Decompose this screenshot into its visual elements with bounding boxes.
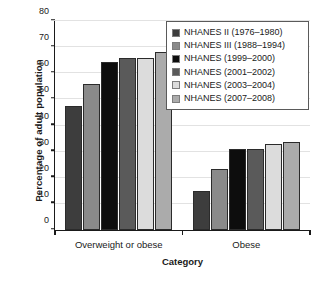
y-tick-label: 0	[7, 215, 55, 225]
legend-item[interactable]: NHANES II (1976–1980)	[172, 26, 303, 39]
y-tick-label: 30	[7, 137, 55, 147]
legend-label: NHANES (2001–2002)	[184, 68, 275, 77]
bar-chart: Percentage of adult population 010203040…	[0, 0, 322, 282]
legend-label: NHANES (2003–2004)	[184, 81, 275, 90]
y-tick-label: 40	[7, 111, 55, 121]
bar-group	[55, 21, 183, 230]
y-tick-label: 20	[7, 163, 55, 173]
y-tick-label: 10	[7, 189, 55, 199]
bar	[211, 169, 228, 230]
bar	[119, 58, 136, 230]
bar	[229, 149, 246, 230]
legend-label: NHANES III (1988–1994)	[184, 41, 285, 50]
bar	[65, 106, 82, 230]
x-tick-mark	[54, 230, 56, 235]
legend-label: NHANES (1999–2000)	[184, 54, 275, 63]
legend: NHANES II (1976–1980)NHANES III (1988–19…	[166, 21, 309, 110]
bar	[265, 144, 282, 230]
legend-swatch-icon	[172, 29, 180, 37]
bar	[193, 191, 210, 230]
y-tick-label: 70	[7, 32, 55, 42]
y-tick-label: 60	[7, 58, 55, 68]
legend-item[interactable]: NHANES III (1988–1994)	[172, 39, 303, 52]
x-axis-title: Category	[55, 256, 310, 267]
legend-swatch-icon	[172, 55, 180, 63]
legend-swatch-icon	[172, 81, 180, 89]
x-tick-mark	[309, 230, 311, 235]
y-tick-label: 50	[7, 84, 55, 94]
y-tick-label: 80	[7, 6, 55, 16]
bar	[83, 84, 100, 230]
legend-label: NHANES (2007–2008)	[184, 94, 275, 103]
bar	[247, 149, 264, 231]
bar	[101, 62, 118, 231]
legend-item[interactable]: NHANES (2001–2002)	[172, 66, 303, 79]
x-category-label: Overweight or obese	[75, 239, 163, 250]
legend-item[interactable]: NHANES (1999–2000)	[172, 52, 303, 65]
x-tick-mark	[182, 230, 184, 235]
legend-swatch-icon	[172, 42, 180, 50]
legend-item[interactable]: NHANES (2007–2008)	[172, 92, 303, 105]
legend-label: NHANES II (1976–1980)	[184, 28, 283, 37]
legend-swatch-icon	[172, 95, 180, 103]
x-category-label: Obese	[232, 239, 260, 250]
bar	[283, 142, 300, 230]
legend-item[interactable]: NHANES (2003–2004)	[172, 79, 303, 92]
legend-swatch-icon	[172, 68, 180, 76]
bar	[137, 58, 154, 230]
